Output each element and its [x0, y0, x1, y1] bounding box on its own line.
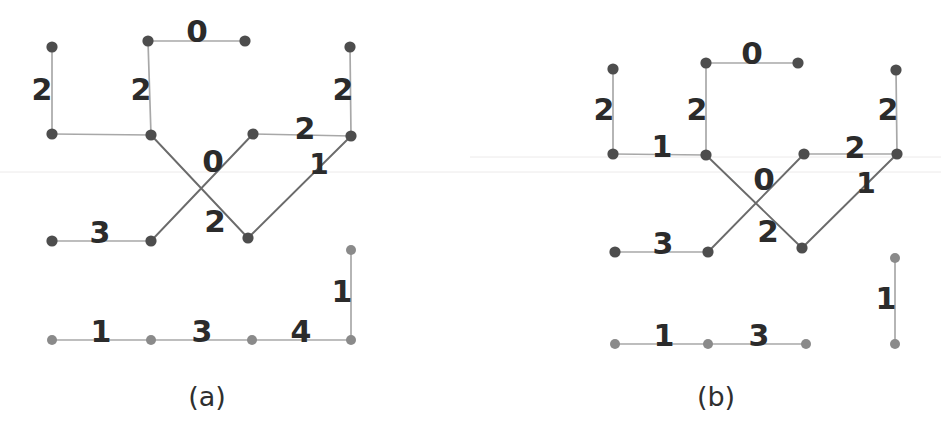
- panel-caption: (a): [188, 381, 226, 412]
- graph-node: [46, 235, 57, 246]
- graph-node: [345, 130, 356, 141]
- edge-weight-label: 3: [749, 318, 770, 353]
- graph-node: [890, 339, 900, 349]
- edge-weight-label: 1: [654, 318, 675, 353]
- edge-weight-label: 2: [32, 72, 53, 107]
- edge-weight-label: 3: [192, 314, 213, 349]
- graph-edge: [802, 154, 897, 248]
- graph-node: [798, 148, 809, 159]
- graph-node: [700, 149, 711, 160]
- edge-weight-label: 2: [204, 203, 226, 239]
- graph-node: [703, 339, 713, 349]
- graph-node: [890, 253, 900, 263]
- graph-node: [145, 235, 156, 246]
- figure-root: 20222021311342022120213113 (a)(b): [0, 0, 941, 439]
- graph-node: [891, 148, 902, 159]
- graph-node: [700, 57, 711, 68]
- graph-node: [610, 339, 620, 349]
- graph-node: [142, 35, 153, 46]
- edge-weight-label: 0: [753, 161, 775, 197]
- edge-weight-label: 3: [653, 226, 674, 261]
- edge-weight-label: 2: [131, 72, 152, 107]
- graph-node: [801, 339, 811, 349]
- graph-node: [702, 246, 713, 257]
- graph-figure-canvas: 20222021311342022120213113 (a)(b): [0, 0, 941, 439]
- edge-weight-label: 1: [652, 129, 673, 164]
- graph-node: [145, 129, 156, 140]
- edge-weight-label: 1: [91, 314, 112, 349]
- edge-weight-label: 2: [594, 92, 615, 127]
- graph-node: [607, 63, 618, 74]
- edge-weight-label: 1: [876, 281, 897, 316]
- panel-caption: (b): [697, 381, 735, 412]
- graph-node: [346, 245, 356, 255]
- graph-node: [242, 232, 253, 243]
- graph-node: [239, 35, 250, 46]
- graph-node: [344, 41, 355, 52]
- graph-node: [146, 335, 156, 345]
- edge-weight-label: 1: [309, 148, 328, 181]
- edge-weight-label: 2: [845, 130, 866, 165]
- graph-edge: [151, 135, 248, 238]
- edge-weight-label: 2: [333, 72, 354, 107]
- graph-node: [890, 64, 901, 75]
- graph-node: [609, 246, 620, 257]
- graph-node: [247, 128, 258, 139]
- graph-node: [796, 242, 807, 253]
- graph-node: [46, 128, 57, 139]
- edge-weight-label: 2: [878, 92, 899, 127]
- graph-node: [346, 335, 356, 345]
- edge-weight-label: 4: [291, 314, 312, 349]
- graph-node: [47, 335, 57, 345]
- edge-weight-label: 2: [757, 213, 779, 249]
- graph-node: [792, 57, 803, 68]
- graph-edge: [248, 136, 351, 238]
- edge-weight-label: 3: [90, 215, 111, 250]
- edge-weight-label: 0: [741, 35, 763, 71]
- edge-weight-label: 0: [186, 13, 208, 49]
- edge-weight-label: 0: [202, 143, 224, 179]
- edge-weight-label: 2: [687, 92, 708, 127]
- edge-weight-label: 1: [856, 167, 875, 200]
- graph-node: [247, 335, 257, 345]
- graph-edge: [52, 134, 151, 135]
- graph-node: [46, 41, 57, 52]
- graph-node: [607, 148, 618, 159]
- panel-captions-layer: (a)(b): [188, 381, 735, 412]
- edge-weight-label: 2: [295, 111, 316, 146]
- edge-weight-label: 1: [332, 274, 353, 309]
